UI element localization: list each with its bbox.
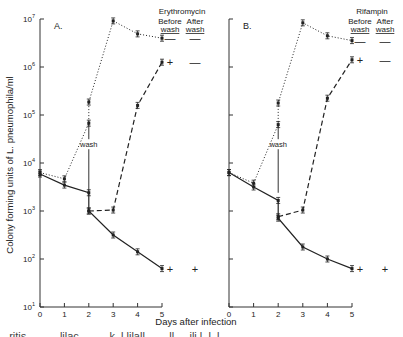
series-dotted <box>40 21 162 179</box>
wash-label: wash <box>79 140 98 149</box>
y-tick-label: 107 <box>23 13 35 24</box>
y-tick-label: 105 <box>23 109 35 120</box>
legend-before-solid: + <box>357 263 363 275</box>
panel-label: A. <box>54 21 63 31</box>
y-tick-label: 103 <box>23 205 35 216</box>
series-dotted <box>229 23 352 183</box>
drug-title: Rifampin <box>356 7 388 16</box>
before-wash-header: wash <box>350 25 370 34</box>
x-axis-label: Days after infection <box>155 316 236 327</box>
legend-before-solid: + <box>167 263 173 275</box>
x-tick-label: 4 <box>135 310 140 319</box>
figure: Colony forming units of L. pneumophila/m… <box>0 0 403 337</box>
legend-after-dotted: — <box>190 32 201 44</box>
x-tick-label: 0 <box>38 310 43 319</box>
legend-before-dotted: — <box>355 35 366 47</box>
x-tick-label: 4 <box>325 310 330 319</box>
x-tick-label: 3 <box>111 310 116 319</box>
legend-after-solid: + <box>382 263 388 275</box>
wash-label: wash <box>268 140 287 149</box>
x-tick-label: 3 <box>301 310 306 319</box>
y-tick-label: 106 <box>23 61 35 72</box>
legend-before-dotted: — <box>165 32 176 44</box>
x-tick-label: 5 <box>350 310 355 319</box>
legend-before-dashed: + <box>167 56 173 68</box>
svg-text:Colony forming units of L. pne: Colony forming units of L. pneumophila/m… <box>4 76 15 253</box>
x-tick-label: 2 <box>276 310 281 319</box>
legend-after-solid: + <box>192 263 198 275</box>
y-axis-label: Colony forming units of L. pneumophila/m… <box>4 76 15 253</box>
series-solid <box>40 174 162 269</box>
x-tick-label: 1 <box>251 310 256 319</box>
y-tick-label: 101 <box>23 301 35 312</box>
y-tick-label: 102 <box>23 253 35 264</box>
series-dashed <box>278 60 352 217</box>
x-tick-label: 2 <box>87 310 92 319</box>
series-dashed <box>89 62 162 211</box>
panel-b-rifampin: 012345B.washRifampinBeforeAfterwashwash—… <box>227 7 395 319</box>
drug-title: Erythromycin <box>159 7 206 16</box>
y-tick-label: 104 <box>23 157 35 168</box>
legend-after-dotted: — <box>380 35 391 47</box>
series-solid <box>229 173 352 269</box>
panel-label: B. <box>243 21 252 31</box>
caption-truncated: ...ritis ...... ...lilac.. ... ...k..l l… <box>0 329 403 337</box>
panel-a-erythromycin: 101102103104105106107012345A.washErythro… <box>23 7 205 319</box>
x-tick-label: 1 <box>62 310 67 319</box>
legend-after-dashed: — <box>190 56 201 68</box>
after-wash-header: wash <box>375 25 395 34</box>
legend-before-dashed: + <box>357 54 363 66</box>
legend-after-dashed: — <box>380 54 391 66</box>
